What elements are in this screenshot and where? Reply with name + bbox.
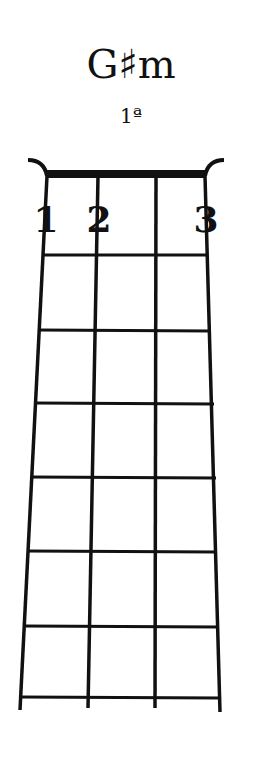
fret-5 [27, 551, 217, 552]
fret-6 [24, 626, 218, 627]
frets [21, 255, 220, 698]
fret-4 [31, 477, 216, 478]
fret-2 [39, 330, 211, 331]
finger-label-3: 3 [193, 198, 218, 240]
fretboard-diagram: 1 2 3 [0, 0, 262, 770]
nut [28, 160, 224, 178]
finger-label-2: 2 [86, 198, 111, 240]
fret-7 [21, 697, 220, 698]
fret-3 [35, 403, 214, 404]
string-1 [20, 176, 47, 710]
finger-label-1: 1 [33, 198, 58, 240]
